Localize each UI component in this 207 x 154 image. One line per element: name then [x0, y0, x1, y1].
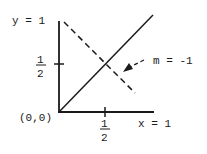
dashed-line [64, 22, 135, 93]
x-half-denominator: 2 [101, 132, 108, 144]
y-half-denominator: 2 [37, 68, 44, 80]
solid-line [59, 15, 153, 112]
slope-arrow-shaft [130, 60, 144, 67]
y-top-label: y = 1 [12, 15, 45, 27]
diagram: y = 1 x = 1 (0,0) m = -1 1 2 1 2 [0, 0, 207, 154]
slope-label: m = -1 [153, 55, 193, 67]
x-half-numerator: 1 [101, 118, 108, 130]
arrow-head-icon [123, 63, 133, 72]
origin-label: (0,0) [19, 112, 52, 124]
y-half-numerator: 1 [37, 54, 44, 66]
x-right-label: x = 1 [138, 118, 171, 130]
